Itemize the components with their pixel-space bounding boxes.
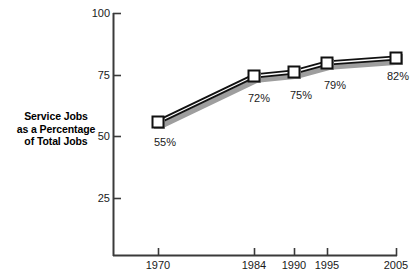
marker-2005 [391, 53, 402, 64]
marker-1990 [289, 67, 300, 78]
marker-1970 [153, 117, 164, 128]
marker-1984 [249, 71, 260, 82]
plot-area [0, 0, 419, 279]
marker-1995 [322, 58, 333, 69]
chart-figure: Service Jobs as a Percentage of Total Jo… [0, 0, 419, 279]
axis-lines [113, 13, 397, 256]
